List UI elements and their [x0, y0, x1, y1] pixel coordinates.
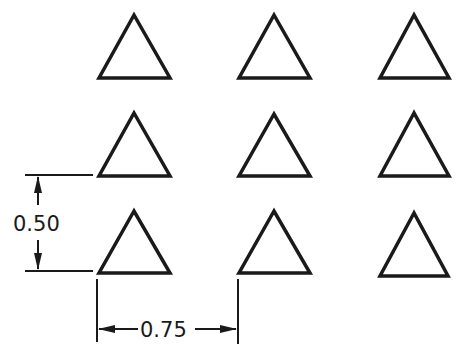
triangle-icon: [239, 114, 310, 176]
triangle-icon: [99, 211, 170, 273]
triangle-group: [99, 15, 449, 276]
triangle-icon: [380, 113, 449, 176]
triangle-icon: [99, 113, 170, 176]
triangle-icon: [239, 15, 310, 78]
triangle-icon: [380, 213, 448, 276]
arrow-down-icon: [34, 253, 42, 270]
triangle-icon: [380, 15, 449, 78]
vertical-dimension-label: 0.50: [13, 212, 60, 236]
triangle-grid-drawing: 0.50 0.75: [0, 0, 476, 358]
arrow-left-icon: [98, 325, 115, 333]
horizontal-dimension-label: 0.75: [140, 318, 187, 342]
arrow-up-icon: [34, 176, 42, 193]
triangle-icon: [239, 211, 310, 273]
arrow-right-icon: [220, 325, 237, 333]
triangle-icon: [99, 15, 170, 78]
